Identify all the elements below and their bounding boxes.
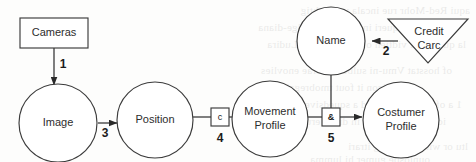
edge-label-4: 4 [217, 131, 224, 145]
node-credit-card-label-line1: Credit [414, 25, 443, 37]
node-name-label: Name [316, 34, 345, 46]
diagram-canvas: aqui Red-Mohr rue incala vec lichtig mbe… [0, 0, 476, 162]
junction-c-symbol: c [218, 112, 223, 122]
node-movement-profile-label-line2: Profile [254, 119, 285, 131]
node-movement-profile-label-line1: Movement [244, 105, 295, 117]
junction-and-symbol: & [328, 112, 335, 122]
node-costumer-profile-label-line1: Costumer [377, 106, 425, 118]
node-position-label: Position [135, 113, 174, 125]
node-cameras-label: Cameras [32, 26, 77, 38]
node-image-label: Image [43, 116, 74, 128]
edge-label-5: 5 [328, 131, 335, 145]
edge-label-2: 2 [383, 44, 390, 58]
edge-label-1: 1 [60, 57, 67, 71]
node-credit-card-label-line2: Carc [417, 39, 441, 51]
node-costumer-profile-label-line2: Profile [385, 120, 416, 132]
diagram-svg: Cameras Image Position Movement Profile … [0, 0, 476, 162]
edge-label-3: 3 [102, 126, 109, 140]
